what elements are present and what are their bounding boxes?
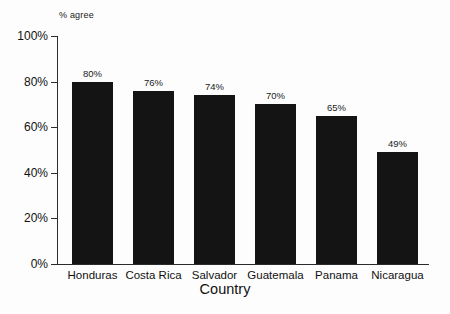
y-tick-mark bbox=[51, 82, 57, 83]
bar-honduras: 80% bbox=[72, 82, 113, 264]
y-tick-mark bbox=[51, 36, 57, 37]
y-tick-mark bbox=[51, 173, 57, 174]
y-tick-mark bbox=[51, 127, 57, 128]
bar-panama: 65% bbox=[316, 116, 357, 264]
x-tick-label-guatemala: Guatemala bbox=[247, 269, 303, 281]
bar-value-label: 49% bbox=[388, 138, 407, 149]
x-tick-label-salvador: Salvador bbox=[192, 269, 237, 281]
bar-value-label: 70% bbox=[266, 90, 285, 101]
x-axis-title: Country bbox=[0, 281, 450, 297]
x-tick-label-nicaragua: Nicaragua bbox=[371, 269, 423, 281]
bar-value-label: 65% bbox=[327, 102, 346, 113]
plot-area: 0% 20% 40% 60% 80% 100% 80% 76% bbox=[57, 36, 429, 264]
bar-value-label: 74% bbox=[205, 81, 224, 92]
x-axis-line bbox=[57, 264, 429, 265]
bar-nicaragua: 49% bbox=[377, 152, 418, 264]
y-tick-mark bbox=[51, 218, 57, 219]
y-tick-label: 80% bbox=[24, 75, 48, 89]
y-tick-label: 20% bbox=[24, 211, 48, 225]
bar-salvador: 74% bbox=[194, 95, 235, 264]
x-tick-label-panama: Panama bbox=[315, 269, 358, 281]
x-tick-label-honduras: Honduras bbox=[68, 269, 118, 281]
y-axis-title: % agree bbox=[59, 10, 94, 20]
bar-value-label: 80% bbox=[83, 68, 102, 79]
bar-costa-rica: 76% bbox=[133, 91, 174, 264]
y-tick-label: 0% bbox=[31, 257, 48, 271]
x-tick-label-costa-rica: Costa Rica bbox=[125, 269, 181, 281]
y-tick-label: 60% bbox=[24, 120, 48, 134]
bar-guatemala: 70% bbox=[255, 104, 296, 264]
y-tick-label: 40% bbox=[24, 166, 48, 180]
bar-value-label: 76% bbox=[144, 77, 163, 88]
y-tick-label: 100% bbox=[17, 29, 48, 43]
y-axis-line bbox=[57, 36, 58, 264]
bar-chart-screenshot: % agree 0% 20% 40% 60% 80% 100% bbox=[0, 0, 450, 314]
y-tick-mark bbox=[51, 264, 57, 265]
